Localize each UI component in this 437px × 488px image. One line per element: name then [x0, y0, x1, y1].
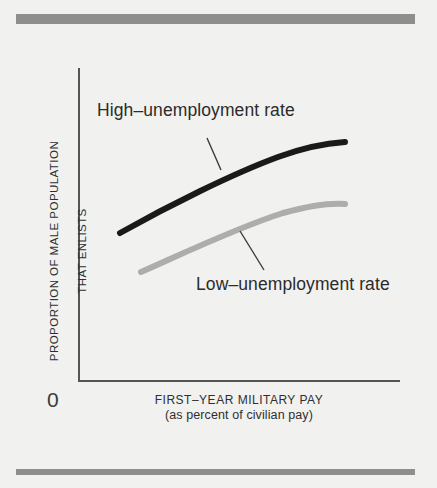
series-label-high-unemployment: High–unemployment rate [97, 100, 295, 121]
series-label-low-unemployment: Low–unemployment rate [196, 274, 390, 295]
x-axis-label-sub: (as percent of civilian pay) [78, 408, 400, 423]
y-axis-label-line2: THAT ENLISTS [75, 121, 89, 381]
chart-figure: PROPORTION OF MALE POPULATION THAT ENLIS… [0, 0, 437, 488]
leader-line-low-unemployment [240, 231, 264, 270]
series-line-low-unemployment [141, 204, 345, 272]
series-line-high-unemployment [120, 142, 345, 233]
origin-tick-label: 0 [47, 388, 59, 412]
y-axis-label: PROPORTION OF MALE POPULATION THAT ENLIS… [33, 121, 103, 381]
leader-line-high-unemployment [207, 138, 221, 170]
y-axis-label-line1: PROPORTION OF MALE POPULATION [47, 121, 61, 381]
x-axis-label: FIRST–YEAR MILITARY PAY (as percent of c… [78, 393, 400, 423]
x-axis-label-main: FIRST–YEAR MILITARY PAY [78, 393, 400, 408]
